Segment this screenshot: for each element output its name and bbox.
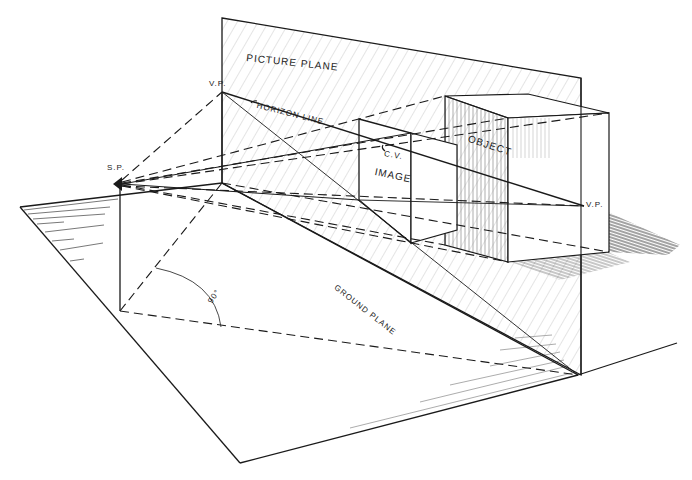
- object-box: [445, 94, 609, 262]
- perspective-diagram: [0, 0, 692, 480]
- label-vp-left: V.P.: [209, 79, 226, 88]
- eye-icon: [113, 177, 122, 191]
- label-vp-right: V.P.: [586, 200, 603, 209]
- label-station-point: S.P.: [107, 163, 125, 172]
